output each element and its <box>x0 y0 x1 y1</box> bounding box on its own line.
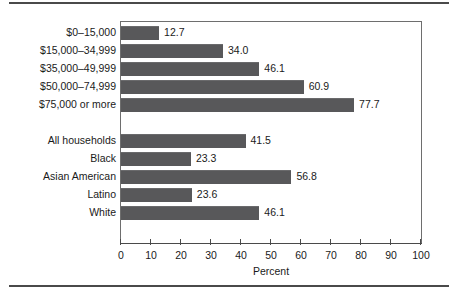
x-tick <box>330 239 331 245</box>
bar <box>121 206 259 220</box>
bar <box>121 80 304 94</box>
bar-value-label: 41.5 <box>251 133 271 147</box>
x-tick <box>420 239 421 245</box>
top-divider-rule <box>9 2 449 4</box>
category-label: $0–15,000 <box>0 25 116 39</box>
bar-value-label: 46.1 <box>264 61 284 75</box>
bar-row: Black23.3 <box>0 152 456 166</box>
bar <box>121 26 159 40</box>
category-label: Latino <box>0 187 116 201</box>
x-tick-label: 70 <box>316 249 346 261</box>
x-tick <box>120 239 121 245</box>
x-tick-label: 10 <box>136 249 166 261</box>
category-label: $50,000–74,999 <box>0 79 116 93</box>
x-tick <box>240 239 241 245</box>
bottom-divider-rule <box>9 285 449 287</box>
bar <box>121 188 192 202</box>
x-axis-line <box>120 243 422 246</box>
bar-row: White46.1 <box>0 206 456 220</box>
bar <box>121 44 223 58</box>
bar <box>121 134 246 148</box>
bar-value-label: 60.9 <box>309 79 329 93</box>
category-label: $35,000–49,999 <box>0 61 116 75</box>
category-label: $75,000 or more <box>0 97 116 111</box>
x-tick <box>270 239 271 245</box>
bar-row: $35,000–49,99946.1 <box>0 62 456 76</box>
bar-value-label: 34.0 <box>228 43 248 57</box>
x-tick-label: 80 <box>346 249 376 261</box>
bar-value-label: 77.7 <box>359 97 379 111</box>
bar-row: All households41.5 <box>0 134 456 148</box>
bar-value-label: 23.6 <box>197 187 217 201</box>
bar-value-label: 23.3 <box>196 151 216 165</box>
x-tick-label: 20 <box>166 249 196 261</box>
x-tick-label: 40 <box>226 249 256 261</box>
bar-row: $75,000 or more77.7 <box>0 98 456 112</box>
bar-value-label: 12.7 <box>164 25 184 39</box>
category-label: Asian American <box>0 169 116 183</box>
bar-value-label: 56.8 <box>296 169 316 183</box>
x-tick <box>150 239 151 245</box>
category-label: White <box>0 205 116 219</box>
x-tick-label: 90 <box>376 249 406 261</box>
x-tick-label: 50 <box>256 249 286 261</box>
x-tick-label: 100 <box>406 249 436 261</box>
category-label: All households <box>0 133 116 147</box>
x-tick <box>210 239 211 245</box>
x-tick <box>300 239 301 245</box>
x-tick-label: 60 <box>286 249 316 261</box>
category-label: Black <box>0 151 116 165</box>
x-tick-label: 0 <box>106 249 136 261</box>
x-tick <box>390 239 391 245</box>
x-tick-label: 30 <box>196 249 226 261</box>
bar-row: $50,000–74,99960.9 <box>0 80 456 94</box>
bar-row: $15,000–34,99934.0 <box>0 44 456 58</box>
bar <box>121 98 354 112</box>
x-tick <box>360 239 361 245</box>
x-tick <box>180 239 181 245</box>
bar <box>121 152 191 166</box>
bar-row: $0–15,00012.7 <box>0 26 456 40</box>
bar <box>121 62 259 76</box>
bar <box>121 170 291 184</box>
bar-value-label: 46.1 <box>264 205 284 219</box>
x-axis-title: Percent <box>120 265 422 277</box>
category-label: $15,000–34,999 <box>0 43 116 57</box>
bar-row: Latino23.6 <box>0 188 456 202</box>
chart-figure: $0–15,00012.7$15,000–34,99934.0$35,000–4… <box>0 0 456 296</box>
bar-row: Asian American56.8 <box>0 170 456 184</box>
